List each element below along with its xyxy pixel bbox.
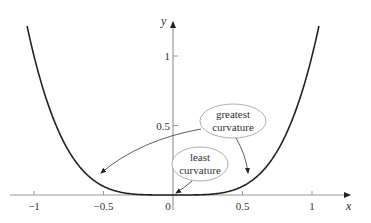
svg-text:curvature: curvature (179, 164, 221, 176)
y-tick-label: 0.5 (156, 120, 170, 132)
annotation-least-curvature: least curvature (172, 147, 228, 193)
y-ticks: 0.51 (156, 50, 178, 132)
y-tick-label: 1 (165, 50, 171, 62)
x-tick-label: 0 (165, 200, 171, 212)
svg-text:greatest: greatest (216, 108, 250, 120)
svg-text:curvature: curvature (212, 121, 254, 133)
x-ticks: −1−0.500.51 (28, 191, 315, 212)
x-axis-label: x (345, 199, 352, 213)
x-tick-label: 0.5 (236, 200, 250, 212)
chart: −1−0.500.51 0.51 x y greatest curvature … (0, 0, 371, 223)
x-tick-label: 1 (309, 200, 315, 212)
y-axis-label: y (160, 14, 167, 28)
x-tick-label: −1 (28, 200, 40, 212)
svg-text:least: least (190, 151, 210, 163)
x-tick-label: −0.5 (94, 200, 114, 212)
